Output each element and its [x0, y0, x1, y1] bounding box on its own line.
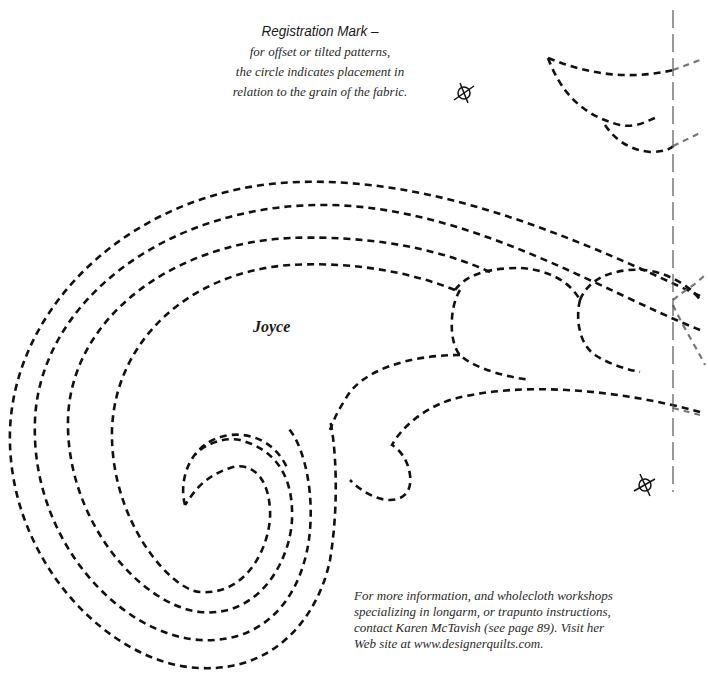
top-right-arc-3 — [605, 125, 673, 152]
footer-note: For more information, and wholecloth wor… — [354, 588, 704, 652]
pattern-name-label: Joyce — [253, 318, 290, 336]
quilt-pattern-page: Registration Mark – for offset or tilted… — [0, 0, 708, 679]
registration-mark-title: Registration Mark – — [221, 22, 419, 39]
cloud-loop-right — [578, 270, 700, 372]
outer-arc-3 — [68, 238, 490, 613]
cloud-loop-left — [452, 268, 580, 380]
lower-sweep — [330, 355, 460, 430]
outer-arc-4 — [112, 264, 455, 592]
registration-mark-description: for offset or tilted patterns, the circl… — [178, 42, 462, 102]
inner-hook — [183, 435, 288, 505]
outer-arc-2 — [35, 205, 700, 640]
registration-mark-bottom-icon — [634, 474, 655, 496]
top-right-arc-1 — [548, 58, 673, 75]
top-right-arc-2 — [548, 58, 655, 126]
